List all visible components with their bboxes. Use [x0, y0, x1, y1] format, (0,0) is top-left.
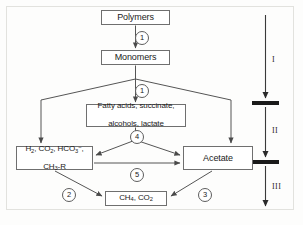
- diagram-canvas: Polymers Monomers Fatty acids, succinate…: [0, 0, 303, 225]
- step-marker-1-fermentation: 1: [135, 84, 149, 98]
- step-marker-4: 4: [130, 130, 144, 144]
- node-reduced-compounds-label: H2, CO2, HCO3−, CH3-R: [17, 144, 92, 172]
- node-intermediates: Fatty acids, succinate, alcohols, lactat…: [86, 104, 186, 127]
- node-monomers-label: Monomers: [102, 52, 169, 62]
- node-polymers: Polymers: [101, 10, 170, 25]
- stage-label-two: II: [272, 126, 278, 135]
- stage-label-three: III: [272, 182, 281, 191]
- step-marker-2: 2: [62, 188, 76, 202]
- stage-divider-two: [252, 160, 279, 164]
- stage-label-one: I: [272, 55, 275, 64]
- node-acetate-label: Acetate: [184, 153, 252, 163]
- node-methane-co2-label: CH4, CO2: [106, 194, 166, 203]
- node-acetate: Acetate: [183, 146, 253, 170]
- node-intermediates-label: Fatty acids, succinate, alcohols, lactat…: [87, 102, 185, 129]
- step-marker-5: 5: [130, 168, 144, 182]
- node-reduced-line2: CH3-R: [17, 163, 92, 172]
- node-monomers: Monomers: [101, 50, 170, 65]
- node-polymers-label: Polymers: [102, 12, 169, 22]
- node-reduced-line1: H2, CO2, HCO3−,: [17, 144, 92, 154]
- stage-divider-one: [252, 101, 279, 105]
- step-marker-3: 3: [198, 188, 212, 202]
- edge-intermediates-to-acetate: [136, 140, 181, 155]
- node-intermediates-line2: alcohols, lactate: [87, 120, 185, 129]
- step-marker-1-hydrolysis: 1: [135, 31, 149, 45]
- edge-intermediates-to-reduced: [96, 140, 136, 155]
- node-reduced-compounds: H2, CO2, HCO3−, CH3-R: [16, 146, 93, 170]
- node-intermediates-line1: Fatty acids, succinate,: [87, 102, 185, 111]
- node-methane-co2: CH4, CO2: [105, 191, 167, 206]
